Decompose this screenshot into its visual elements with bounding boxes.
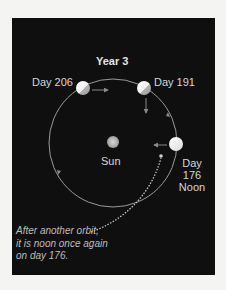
- planet-day-206-icon: [76, 81, 90, 95]
- label-day-176-line-1: Day: [176, 157, 208, 169]
- callout-endpoint-icon: [159, 154, 163, 158]
- planet-day-176-icon: [169, 137, 183, 151]
- label-day-176-noon: Day 176 Noon: [176, 157, 208, 193]
- caption: After another orbit, it is noon once aga…: [16, 225, 136, 263]
- label-day-176-line-3: Noon: [176, 181, 208, 193]
- caption-line-3: on day 176.: [16, 250, 136, 263]
- label-sun: Sun: [101, 155, 121, 167]
- caption-line-1: After another orbit,: [16, 225, 136, 238]
- label-day-206: Day 206: [32, 76, 73, 88]
- planet-day-191-icon: [137, 81, 151, 95]
- label-day-191: Day 191: [154, 76, 195, 88]
- diagram-title: Year 3: [96, 55, 128, 67]
- label-day-176-line-2: 176: [176, 169, 208, 181]
- sun-icon: [107, 136, 119, 148]
- caption-line-2: it is noon once again: [16, 238, 136, 251]
